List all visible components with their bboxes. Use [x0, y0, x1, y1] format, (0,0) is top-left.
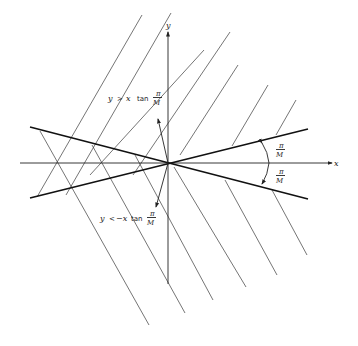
svg-text:x: x — [126, 94, 131, 103]
svg-text:M: M — [275, 177, 284, 185]
angle-arc-lower — [262, 163, 269, 184]
angle-label-lower: π M — [275, 168, 285, 185]
svg-text:M: M — [275, 151, 284, 159]
svg-text:tan: tan — [137, 95, 148, 103]
normal-arrow-lower — [156, 163, 168, 207]
decision-region-diagram: x y y > x tan π M y < −x tan π M π M π M — [0, 0, 358, 346]
svg-text:π: π — [278, 142, 284, 150]
svg-text:y: y — [107, 94, 113, 103]
svg-text:tan: tan — [131, 215, 142, 223]
svg-text:M: M — [152, 99, 161, 107]
angle-arc-upper — [262, 143, 269, 163]
y-axis-label: y — [165, 21, 171, 30]
svg-text:π: π — [278, 168, 284, 176]
svg-text:−x: −x — [116, 214, 128, 223]
hatch-lines-down-right — [40, 131, 307, 325]
svg-text:>: > — [117, 95, 123, 103]
svg-text:y: y — [99, 214, 105, 223]
upper-region-label: y > x tan π M — [107, 90, 162, 107]
x-axis-label: x — [334, 159, 339, 168]
svg-text:π: π — [149, 210, 155, 218]
svg-text:<: < — [109, 215, 115, 223]
lower-region-label: y < −x tan π M — [99, 210, 156, 227]
svg-text:π: π — [155, 90, 161, 98]
angle-label-upper: π M — [275, 142, 285, 159]
svg-text:M: M — [146, 219, 155, 227]
